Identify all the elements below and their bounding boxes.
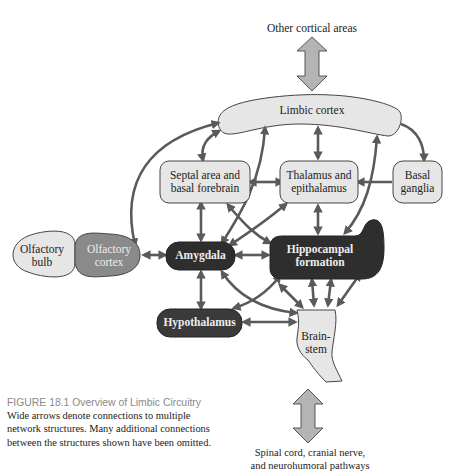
hippocampal-label: Hippocampal formation (270, 243, 370, 269)
wide-arrow-bottom (293, 389, 323, 443)
figure-caption: FIGURE 18.1 Overview of Limbic Circuitry… (7, 396, 212, 449)
amygdala-label: Amygdala (166, 249, 235, 262)
brainstem-label: Brain- stem (298, 330, 334, 356)
septal-area-label: Septal area and basal forebrain (160, 169, 250, 195)
basal-ganglia-label: Basal ganglia (393, 169, 442, 195)
wide-arrow-top (297, 37, 327, 91)
thalamus-label: Thalamus and epithalamus (280, 169, 358, 195)
limbic-cortex-label: Limbic cortex (262, 104, 362, 117)
figure-number: FIGURE 18.1 Overview of Limbic Circuitry (7, 397, 201, 408)
other-cortical-areas-label: Other cortical areas (262, 22, 362, 35)
caption-text: Wide arrows denote connections to multip… (7, 410, 211, 447)
olfactory-cortex-label: Olfactory cortex (80, 243, 138, 269)
olfactory-bulb-label: Olfactory bulb (12, 243, 72, 269)
spinal-cord-label: Spinal cord, cranial nerve, and neurohum… (230, 446, 390, 472)
hypothalamus-label: Hypothalamus (157, 316, 242, 329)
